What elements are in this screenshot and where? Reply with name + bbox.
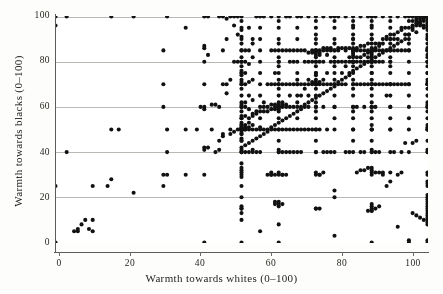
- x-tick-label-80: 80: [325, 258, 359, 268]
- x-tick-mark-20: [130, 252, 131, 256]
- x-tick-label-100: 100: [396, 258, 430, 268]
- scatter-canvas: [55, 16, 428, 243]
- scatter-plot-figure: 100 80 60 40 20 0 0 20 40 60 80 100 Warm…: [0, 0, 443, 294]
- y-tick-label-20: 20: [24, 192, 50, 202]
- y-axis-label: Warmth towards blacks (0–100): [12, 55, 24, 206]
- x-axis-label: Warmth towards whites (0–100): [0, 272, 443, 284]
- y-axis-label-wrapper: Warmth towards blacks (0–100): [8, 6, 26, 256]
- y-axis-spine: [55, 14, 56, 253]
- x-tick-mark-100: [413, 252, 414, 256]
- x-axis-spine: [54, 252, 429, 253]
- x-tick-mark-0: [59, 252, 60, 256]
- x-tick-label-40: 40: [183, 258, 217, 268]
- x-tick-mark-80: [342, 252, 343, 256]
- x-tick-label-0: 0: [42, 258, 76, 268]
- x-tick-mark-40: [200, 252, 201, 256]
- x-tick-label-60: 60: [254, 258, 288, 268]
- y-tick-label-40: 40: [24, 147, 50, 157]
- y-tick-label-80: 80: [24, 55, 50, 65]
- y-tick-label-100: 100: [24, 10, 50, 20]
- x-tick-label-20: 20: [113, 258, 147, 268]
- y-tick-label-60: 60: [24, 101, 50, 111]
- x-tick-mark-60: [271, 252, 272, 256]
- plot-area: [55, 16, 428, 243]
- y-tick-label-0: 0: [24, 237, 50, 247]
